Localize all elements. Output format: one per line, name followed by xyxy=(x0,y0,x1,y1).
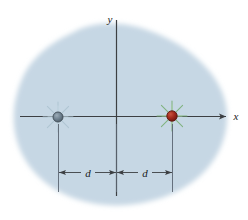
y-axis-label: y xyxy=(107,13,113,25)
right-charge xyxy=(157,101,187,131)
left-charge-dot xyxy=(53,112,63,122)
x-axis-label: x xyxy=(233,110,239,122)
physics-diagram-svg: y x xyxy=(0,0,248,220)
dimension-right-label: d xyxy=(142,167,148,179)
dimension-left-label: d xyxy=(85,167,91,179)
shaded-region xyxy=(14,24,227,206)
left-charge xyxy=(43,102,73,132)
figure-container: y x xyxy=(0,0,248,220)
right-charge-dot xyxy=(167,111,177,121)
